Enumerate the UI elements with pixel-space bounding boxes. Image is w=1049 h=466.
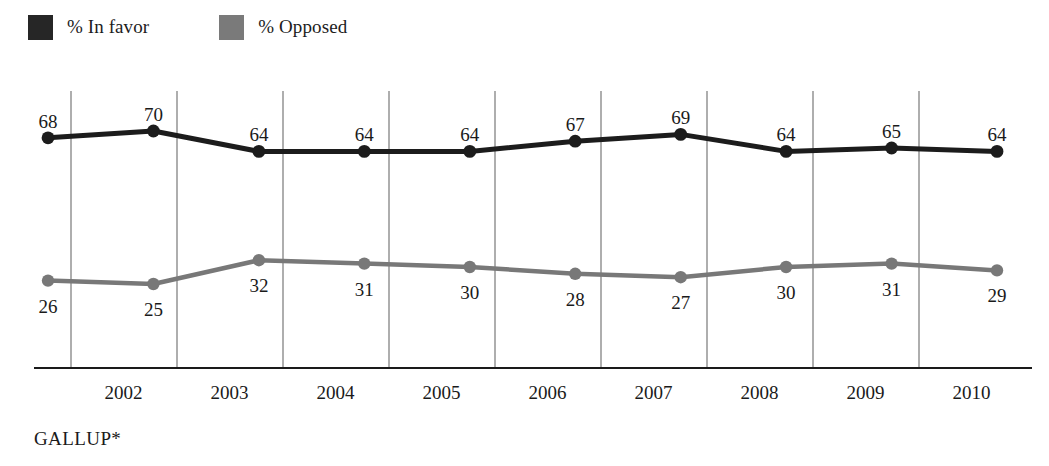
data-point-label: 64: [460, 125, 479, 144]
data-point-label: 30: [777, 283, 796, 302]
data-point-label: 32: [249, 276, 268, 295]
data-point-label: 27: [671, 293, 690, 312]
data-point-marker: [358, 145, 371, 158]
x-tick-label: 2008: [741, 383, 779, 402]
data-point-label: 68: [39, 112, 58, 131]
data-point-marker: [147, 278, 159, 290]
data-point-marker: [780, 145, 793, 158]
data-point-label: 64: [777, 125, 796, 144]
data-point-label: 67: [566, 115, 585, 134]
data-point-marker: [253, 145, 266, 158]
data-point-marker: [885, 142, 898, 155]
x-tick-label: 2009: [847, 383, 885, 402]
data-point-marker: [674, 128, 687, 141]
data-point-marker: [885, 257, 897, 269]
data-point-label: 64: [249, 125, 268, 144]
x-tick-label: 2002: [105, 383, 143, 402]
data-point-label: 26: [39, 297, 58, 316]
data-point-marker: [569, 268, 581, 280]
gallup-line-chart: % In favor % Opposed 6870646464676964656…: [0, 0, 1049, 466]
x-tick-label: 2007: [635, 383, 673, 402]
data-point-marker: [253, 254, 265, 266]
x-tick-label: 2010: [953, 383, 991, 402]
data-point-marker: [569, 135, 582, 148]
data-point-marker: [780, 261, 792, 273]
data-point-marker: [675, 271, 687, 283]
data-point-marker: [991, 145, 1004, 158]
data-point-label: 31: [355, 280, 374, 299]
data-point-label: 64: [988, 125, 1007, 144]
plot-svg: [0, 0, 1049, 466]
data-point-label: 29: [988, 286, 1007, 305]
x-tick-label: 2005: [423, 383, 461, 402]
data-point-marker: [464, 261, 476, 273]
x-tick-label: 2006: [529, 383, 567, 402]
data-point-marker: [42, 274, 54, 286]
x-tick-label: 2003: [211, 383, 249, 402]
x-tick-label: 2004: [317, 383, 355, 402]
data-point-label: 70: [144, 105, 163, 124]
data-point-marker: [991, 264, 1003, 276]
data-point-label: 69: [671, 108, 690, 127]
data-point-label: 65: [882, 122, 901, 141]
plot-area: [0, 0, 1049, 466]
data-point-label: 31: [882, 280, 901, 299]
series-line-opposed: [48, 260, 997, 284]
data-point-marker: [147, 125, 160, 138]
data-point-label: 64: [355, 125, 374, 144]
data-point-marker: [358, 257, 370, 269]
data-point-label: 28: [566, 290, 585, 309]
series-lines: [42, 125, 1004, 291]
data-point-label: 25: [144, 300, 163, 319]
data-point-marker: [42, 131, 55, 144]
data-point-label: 30: [460, 283, 479, 302]
data-point-marker: [463, 145, 476, 158]
source-note: GALLUP*: [34, 428, 121, 450]
series-line-in-favor: [48, 131, 997, 151]
